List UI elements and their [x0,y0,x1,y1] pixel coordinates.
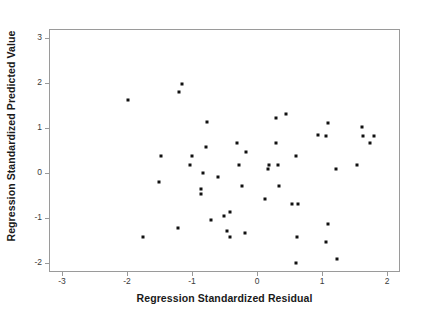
data-point [326,121,329,124]
x-tick-label: -1 [177,276,207,286]
data-point [216,176,219,179]
data-point [157,180,160,183]
data-point [201,172,204,175]
y-tick-label: 2 [24,77,42,87]
data-point [325,134,328,137]
data-point [127,98,130,101]
data-point [294,261,297,264]
y-tick-label: -1 [24,212,42,222]
data-point [274,142,277,145]
data-point [229,211,232,214]
data-point [236,142,239,145]
data-point [237,164,240,167]
y-tick-label: 3 [24,32,42,42]
data-point [327,223,330,226]
data-point [355,164,358,167]
data-point [297,202,300,205]
data-point [317,134,320,137]
data-point [180,82,183,85]
data-point [325,240,328,243]
data-point [296,236,299,239]
y-axis-title: Regression Standardized Predicted Value [0,0,22,272]
data-point [177,91,180,94]
plot-area [50,30,399,271]
data-point [362,134,365,137]
data-point [263,197,266,200]
x-tick-label: 1 [307,276,337,286]
data-point [268,164,271,167]
y-tick-label: 0 [24,167,42,177]
data-point [200,188,203,191]
data-point [294,155,297,158]
data-point [226,230,229,233]
plot-frame [49,29,400,272]
data-point [245,150,248,153]
data-point [361,126,364,129]
data-point [335,168,338,171]
data-point [291,202,294,205]
data-point [190,155,193,158]
data-point [159,155,162,158]
x-tick-label: -2 [112,276,142,286]
x-tick-label: 2 [372,276,402,286]
data-point [244,231,247,234]
data-point [277,185,280,188]
data-point [188,164,191,167]
x-tick-label: 0 [242,276,272,286]
data-point [276,164,279,167]
y-tick-label: 1 [24,122,42,132]
x-tick-label: -3 [47,276,77,286]
data-point [336,258,339,261]
data-point [284,113,287,116]
data-point [206,121,209,124]
scatter-chart: Regression Standardized Predicted Value … [0,0,428,321]
data-point [372,134,375,137]
y-tick-label: -2 [24,257,42,267]
data-point [205,146,208,149]
data-point [141,236,144,239]
data-point [222,214,225,217]
data-point [240,185,243,188]
data-point [229,236,232,239]
data-point [199,193,202,196]
x-axis-title: Regression Standardized Residual [49,292,400,304]
data-point [368,142,371,145]
data-point [275,117,278,120]
data-point [177,227,180,230]
data-point [266,168,269,171]
data-point [209,218,212,221]
